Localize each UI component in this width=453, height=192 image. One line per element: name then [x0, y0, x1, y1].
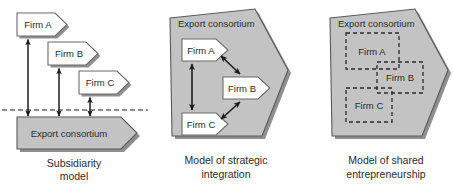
firm-b-label-panel1: Firm B [55, 48, 83, 59]
panel-strategic-integration: Export consortium Firm A Firm B Firm C M… [170, 9, 291, 180]
firm-a-label-panel1: Firm A [24, 19, 52, 30]
consortium-label-panel2: Export consortium [178, 18, 255, 29]
firm-a-label-panel2: Firm A [187, 45, 215, 56]
firm-a-label-panel3: Firm A [358, 46, 386, 57]
firm-c-label-panel3: Firm C [355, 100, 384, 111]
firm-b-label-panel3: Firm B [386, 72, 414, 83]
caption-line2-panel1: model [60, 170, 89, 182]
firm-a-shape-panel1: Firm A [17, 13, 70, 39]
firm-c-label-panel1: Firm C [86, 77, 115, 88]
caption-line2-panel2: integration [201, 168, 250, 180]
caption-line1-panel3: Model of shared [348, 154, 423, 166]
three-models-diagram: Export consortium Firm A Firm B Firm C S… [0, 0, 453, 192]
consortium-shape-panel1: Export consortium [17, 117, 140, 152]
panel-shared-entrepreneurship: Export consortium Firm A Firm B Firm C M… [330, 9, 451, 180]
firm-c-label-panel2: Firm C [187, 119, 216, 130]
consortium-label-panel1: Export consortium [31, 128, 108, 139]
panel-subsidiarity: Export consortium Firm A Firm B Firm C S… [2, 13, 148, 182]
firm-b-label-panel2: Firm B [228, 83, 256, 94]
caption-line1-panel2: Model of strategic [185, 154, 268, 166]
consortium-label-panel3: Export consortium [338, 18, 415, 29]
firm-b-shape-panel1: Firm B [48, 42, 101, 68]
firm-c-shape-panel1: Firm C [79, 71, 132, 97]
caption-line1-panel1: Subsidiarity [47, 157, 102, 169]
caption-line2-panel3: entrepreneurship [346, 168, 426, 180]
figure-root: Export consortium Firm A Firm B Firm C S… [0, 0, 453, 192]
